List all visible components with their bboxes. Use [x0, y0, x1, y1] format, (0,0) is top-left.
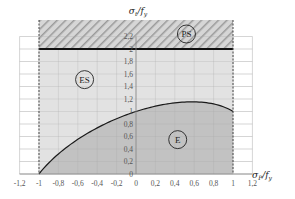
stress-interaction-chart: -1,2-1-0,8-0,6-0,4-0,200,20,40,60,811,20… [0, 0, 295, 199]
y-axis-title: σt/fy [129, 6, 148, 18]
x-tick-label: -0,4 [91, 179, 103, 188]
label-text: ES [79, 75, 90, 85]
y-tick-label: 2 [129, 45, 133, 54]
y-tick-label: 0,6 [124, 132, 134, 141]
y-tick-label: 0,4 [124, 145, 134, 154]
y-tick-label: 1,4 [124, 82, 134, 91]
x-tick-label: -1 [36, 179, 42, 188]
x-tick-label: 0,2 [151, 179, 161, 188]
y-tick-label: 2,2 [124, 32, 134, 41]
y-tick-label: 1 [129, 107, 133, 116]
x-tick-label: 0,8 [209, 179, 219, 188]
x-tick-label: -0,6 [72, 179, 84, 188]
x-tick-label: -0,2 [111, 179, 123, 188]
label-text: E [175, 135, 181, 145]
label-text: PS [181, 29, 191, 39]
x-tick-label: 0,4 [170, 179, 180, 188]
x-tick-label: 0,6 [190, 179, 200, 188]
y-tick-label: 1,8 [124, 57, 134, 66]
y-tick-label: 1,6 [124, 70, 134, 79]
x-tick-label: 1 [231, 179, 235, 188]
y-tick-label: 0 [129, 170, 133, 179]
x-tick-label: 0 [134, 179, 138, 188]
x-tick-label: -0,8 [52, 179, 64, 188]
x-tick-label: -1,2 [14, 179, 26, 188]
y-tick-label: 1,2 [124, 95, 134, 104]
y-tick-label: 0,2 [124, 157, 134, 166]
y-tick-label: 0,8 [124, 120, 134, 129]
x-tick-label: 1,2 [248, 179, 258, 188]
